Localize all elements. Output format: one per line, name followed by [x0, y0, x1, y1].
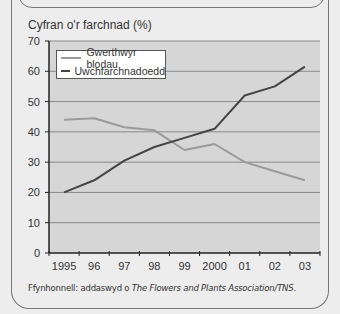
y-tick-label: 60 [28, 65, 40, 77]
y-tick-label: 40 [28, 126, 40, 138]
y-tick-label: 30 [28, 156, 40, 168]
y-tick-label: 0 [34, 247, 40, 259]
legend-swatch-supermarkets [61, 70, 70, 72]
y-tick-label: 50 [28, 96, 40, 108]
source-prefix: Ffynhonnell: addaswyd o [28, 283, 132, 293]
legend-item-florists: Gwerthwyr blodau [57, 51, 165, 64]
x-tick-label: 99 [178, 260, 190, 272]
source-suffix: . [293, 283, 296, 293]
source-name: The Flowers and Plants Association/TNS [132, 283, 294, 293]
y-tick-label: 70 [28, 35, 40, 47]
y-tick-label: 10 [28, 217, 40, 229]
legend-item-supermarkets: Uwchfarchnadoedd [57, 64, 165, 77]
x-tick-label: 97 [118, 260, 130, 272]
x-tick-label: 03 [299, 260, 311, 272]
x-tick-label: 96 [88, 260, 100, 272]
line-chart: 0102030405060701995969798992000010203 [0, 0, 340, 314]
x-tick-label: 02 [269, 260, 281, 272]
x-tick-label: 01 [239, 260, 251, 272]
x-tick-label: 1995 [52, 260, 76, 272]
legend-swatch-florists [61, 57, 81, 59]
x-tick-label: 98 [148, 260, 160, 272]
x-tick-label: 2000 [202, 260, 226, 272]
source-note: Ffynhonnell: addaswyd o The Flowers and … [28, 283, 296, 293]
legend: Gwerthwyr blodau Uwchfarchnadoedd [56, 50, 166, 79]
legend-label-supermarkets: Uwchfarchnadoedd [75, 65, 165, 77]
y-tick-label: 20 [28, 186, 40, 198]
